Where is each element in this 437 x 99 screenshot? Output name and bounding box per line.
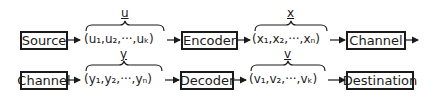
vector-x-label: x [287, 6, 294, 20]
sequence-x: (x₁,x₂,···,xₙ) [252, 32, 320, 46]
decoder-block: Decoder [180, 71, 234, 90]
channel-block-bottom: Channel [20, 71, 68, 90]
vector-y-label: y [120, 47, 127, 61]
destination-block: Destination [346, 71, 414, 90]
sequence-y: (y₁,y₂,···,yₙ) [84, 72, 152, 86]
channel-block-top: Channel [346, 31, 406, 50]
vector-v-label: v [284, 47, 291, 61]
sequence-v: (v₁,v₂,···,vₖ) [249, 72, 317, 86]
sequence-u: (u₁,u₂,···,uₖ) [84, 32, 154, 46]
source-block: Source [20, 31, 68, 50]
vector-u-label: u [121, 6, 129, 20]
encoder-block: Encoder [181, 31, 238, 50]
